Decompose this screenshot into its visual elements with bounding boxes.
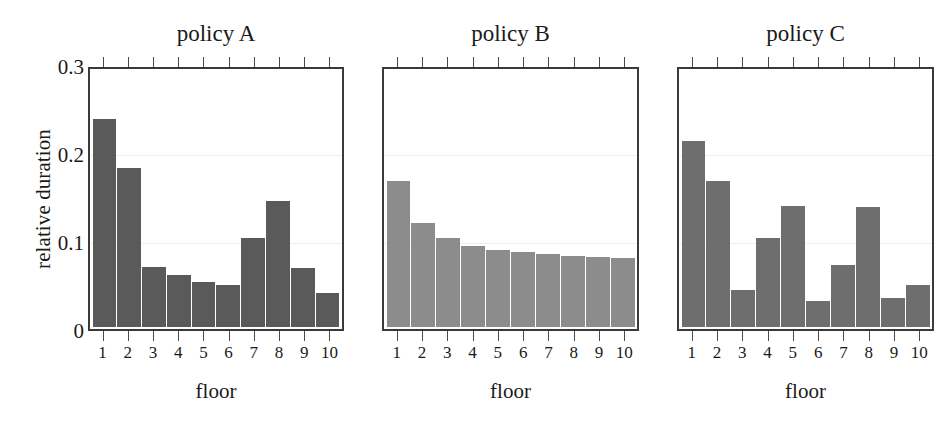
panel-title: policy A [88,22,344,45]
x-tick-mark [153,331,154,341]
panel-title: policy C [677,22,934,45]
bar[interactable] [536,254,560,327]
bar[interactable] [781,206,805,327]
x-tick-mark [498,57,499,67]
x-tick-mark [717,57,718,67]
bar[interactable] [241,238,265,327]
chart-panel: policy A12345678910floor [88,0,344,429]
x-tick-mark [128,57,129,67]
x-tick-label: 3 [730,344,755,361]
x-tick-mark [422,331,423,341]
bar[interactable] [831,265,855,327]
x-tick-mark [498,331,499,341]
x-tick-label: 7 [241,344,266,361]
x-tick-mark [624,331,625,341]
bar[interactable] [436,238,460,327]
x-tick-mark [523,331,524,341]
x-tick-mark [919,331,920,341]
x-tick-mark [574,57,575,67]
bar[interactable] [216,285,240,327]
chart-panel: policy C12345678910floor [677,0,934,429]
x-tick-mark [422,57,423,67]
bar[interactable] [881,298,905,327]
bar[interactable] [731,290,755,327]
figure-canvas: relative duration 0.30.20.10 policy A123… [0,0,952,429]
x-tick-label: 1 [679,344,704,361]
bar[interactable] [486,250,510,327]
x-tick-label: 5 [485,344,510,361]
x-tick-mark [304,57,305,67]
x-tick-mark [329,331,330,341]
x-tick-mark [229,331,230,341]
bar[interactable] [117,168,141,327]
x-tick-mark [843,57,844,67]
bar[interactable] [167,275,191,327]
bar[interactable] [316,293,340,327]
bar[interactable] [906,285,930,327]
bar[interactable] [511,252,535,327]
bar[interactable] [856,207,880,327]
x-tick-mark [473,57,474,67]
bar[interactable] [682,141,706,327]
plot-area [88,67,344,331]
x-tick-mark [103,331,104,341]
y-tick-label: 0 [38,321,84,342]
x-tick-label: 8 [856,344,881,361]
bar[interactable] [586,257,610,327]
bar[interactable] [192,282,216,327]
x-tick-mark [793,331,794,341]
x-tick-mark [574,331,575,341]
bar[interactable] [806,301,830,327]
x-tick-label: 3 [140,344,165,361]
bar[interactable] [411,223,435,327]
x-tick-label: 2 [704,344,729,361]
x-tick-mark [818,57,819,67]
bar[interactable] [461,246,485,327]
x-tick-mark [768,57,769,67]
x-axis-ticks-bottom [88,331,344,341]
bar[interactable] [756,238,780,327]
x-tick-mark [397,57,398,67]
x-tick-label: 4 [755,344,780,361]
x-tick-label: 4 [460,344,485,361]
x-axis-title: floor [382,381,639,402]
x-tick-label: 8 [561,344,586,361]
x-tick-label: 4 [166,344,191,361]
y-tick-label: 0.1 [38,233,84,254]
x-tick-mark [599,331,600,341]
x-tick-label: 9 [586,344,611,361]
bar-series [92,71,340,327]
bar[interactable] [291,268,315,327]
x-tick-label: 1 [384,344,409,361]
bar[interactable] [266,201,290,327]
x-tick-label: 9 [292,344,317,361]
bar[interactable] [706,181,730,327]
y-axis-tick-labels: 0.30.20.10 [38,0,84,429]
x-tick-mark [742,57,743,67]
y-tick-label: 0.3 [38,57,84,78]
x-tick-label: 6 [216,344,241,361]
x-tick-mark [869,331,870,341]
bar[interactable] [93,119,117,327]
x-tick-mark [894,57,895,67]
x-tick-label: 9 [881,344,906,361]
x-tick-label: 5 [191,344,216,361]
x-tick-label: 3 [435,344,460,361]
x-tick-label: 2 [115,344,140,361]
bar[interactable] [142,267,166,327]
x-tick-mark [742,331,743,341]
x-tick-mark [447,57,448,67]
x-tick-mark [178,331,179,341]
bar[interactable] [387,181,411,327]
x-tick-label: 10 [317,344,342,361]
x-axis-ticks-bottom [382,331,639,341]
bar-series [681,71,930,327]
x-tick-label: 1 [90,344,115,361]
x-tick-label: 6 [510,344,535,361]
x-tick-label: 8 [266,344,291,361]
x-tick-mark [894,331,895,341]
x-tick-mark [717,331,718,341]
x-axis-ticks-bottom [677,331,934,341]
bar[interactable] [561,256,585,327]
bar[interactable] [611,258,635,327]
